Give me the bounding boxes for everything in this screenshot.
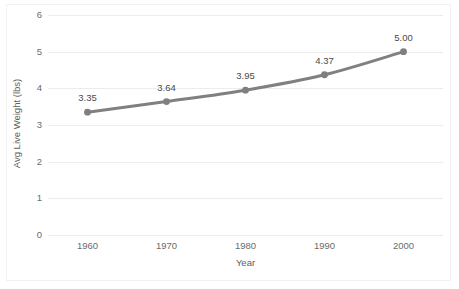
y-tick-4: 4 [28,83,42,93]
series-path [88,52,404,113]
line-chart: Avg Live Weight (lbs) 0123456 3.353.643.… [0,0,459,289]
x-axis-tick-labels: 19601970198019902000 [48,240,443,254]
data-label-1980: 3.95 [224,70,268,81]
data-point-1970 [163,98,170,105]
y-tick-3: 3 [28,120,42,130]
data-point-1980 [242,87,249,94]
y-tick-2: 2 [28,157,42,167]
y-axis-tick-labels: 0123456 [26,15,42,235]
x-tick-1960: 1960 [63,240,113,252]
x-tick-2000: 2000 [379,240,429,252]
x-tick-1980: 1980 [221,240,271,252]
data-point-2000 [400,48,407,55]
x-axis-title: Year [48,257,443,268]
data-point-1960 [84,109,91,116]
y-tick-1: 1 [28,193,42,203]
gridline-0 [48,235,443,236]
data-label-1990: 4.37 [303,55,347,66]
y-tick-0: 0 [28,230,42,240]
data-point-1990 [321,71,328,78]
x-tick-1970: 1970 [142,240,192,252]
y-axis-title: Avg Live Weight (lbs) [11,59,22,189]
x-tick-1990: 1990 [300,240,350,252]
data-label-1960: 3.35 [66,92,110,103]
plot-area: 3.353.643.954.375.00 [48,15,443,235]
y-tick-5: 5 [28,47,42,57]
chart-title [0,0,459,1]
data-label-2000: 5.00 [382,32,426,43]
y-tick-6: 6 [28,10,42,20]
data-series-line [48,15,443,235]
data-label-1970: 3.64 [145,82,189,93]
